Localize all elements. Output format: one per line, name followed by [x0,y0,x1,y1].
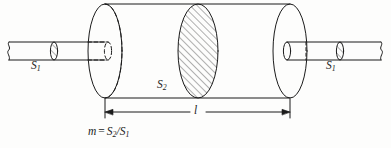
dim-arrow-left [105,109,113,114]
right-rod-break-end [381,42,383,60]
right-rod-origin-ellipse [283,42,290,60]
equation-m-equals-s2-over-s1: m=S2/S1 [88,126,129,139]
figure-canvas: S1 S2 S1 l m=S2/S1 [0,0,391,148]
s2-hatched-ellipse [178,4,218,98]
left-rod-break-end [8,42,10,60]
rod-hidden-inside-left-cap [88,42,112,60]
mid-section-s2 [178,4,218,98]
equation-operator: = [96,125,107,137]
label-s1-right-subscript: 1 [332,64,336,73]
label-s1-left: S1 [31,60,41,73]
right-rod [283,42,382,60]
label-s2-subscript: 2 [163,83,167,92]
length-dimension [105,99,290,118]
dim-arrow-right [282,109,290,114]
label-s1-left-subscript: 1 [37,64,41,73]
right-rod-section-s1 [336,42,343,60]
cylinder-right-cap [273,4,307,98]
diagram-svg [0,0,391,148]
label-s1-right: S1 [326,60,336,73]
cylinder-left-cap-hidden-edge [105,4,122,98]
left-rod [8,42,105,60]
hidden-rod-end-ellipse [104,42,111,60]
equation-denominator-subscript: 1 [125,130,129,139]
left-rod-section-s1 [50,42,57,60]
label-s2: S2 [157,79,167,92]
label-length: l [194,105,197,117]
